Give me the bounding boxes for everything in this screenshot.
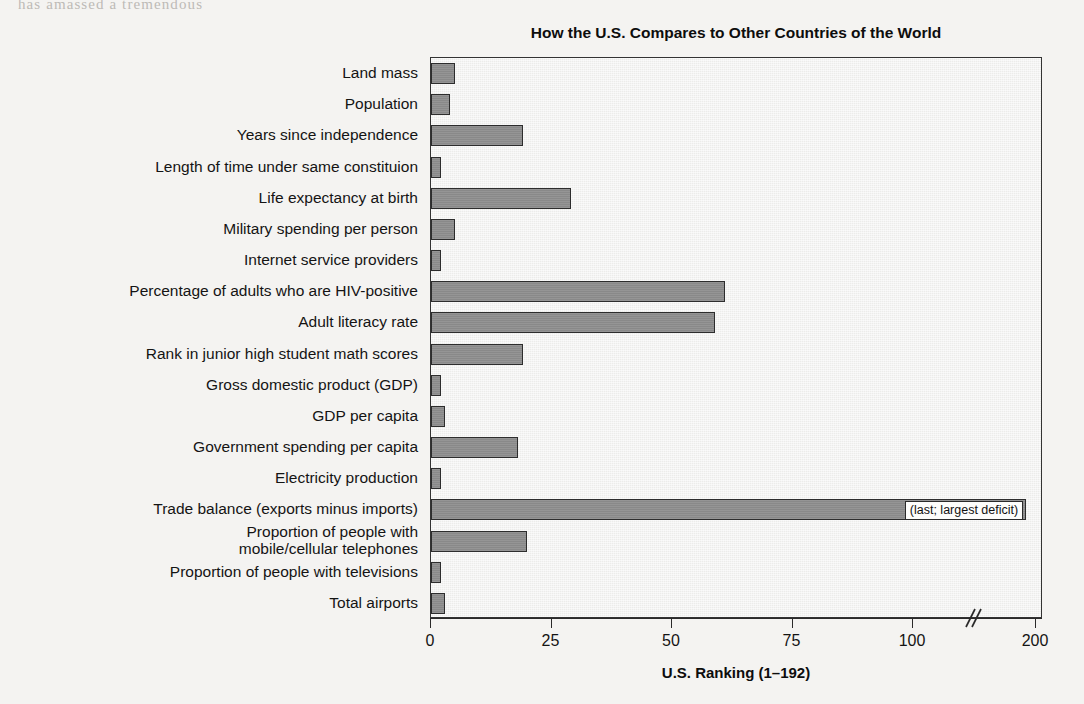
bar xyxy=(431,375,441,396)
bar xyxy=(431,219,455,240)
x-axis-line xyxy=(430,618,1042,619)
x-axis-title: U.S. Ranking (1–192) xyxy=(430,664,1042,681)
category-label: Adult literacy rate xyxy=(298,313,418,330)
bar-row xyxy=(431,307,1043,338)
category-label: Length of time under same constituion xyxy=(155,158,418,175)
x-tick-label: 0 xyxy=(426,632,435,650)
bar xyxy=(431,406,445,427)
category-axis-labels: Land massPopulationYears since independe… xyxy=(0,57,424,618)
category-label: Trade balance (exports minus imports) xyxy=(153,500,418,517)
bar xyxy=(431,437,518,458)
category-label: Percentage of adults who are HIV-positiv… xyxy=(129,282,418,299)
x-axis: 0255075100200 xyxy=(430,618,1042,632)
bar xyxy=(431,94,450,115)
bar-row xyxy=(431,183,1043,214)
bar-row xyxy=(431,401,1043,432)
x-tick-label: 200 xyxy=(1022,632,1049,650)
bar-row xyxy=(431,245,1043,276)
plot-area: (last; largest deficit) xyxy=(430,57,1042,618)
x-tick xyxy=(551,618,552,628)
category-label: Internet service providers xyxy=(244,251,418,268)
bar-row xyxy=(431,89,1043,120)
bar-row xyxy=(431,276,1043,307)
bar-row xyxy=(431,557,1043,588)
chart-title: How the U.S. Compares to Other Countries… xyxy=(430,24,1042,42)
bar-row xyxy=(431,120,1043,151)
x-tick xyxy=(792,618,793,628)
bar-row xyxy=(431,588,1043,619)
x-tick xyxy=(912,618,913,628)
x-tick-label: 100 xyxy=(899,632,926,650)
category-label: Gross domestic product (GDP) xyxy=(206,376,418,393)
bar-row: (last; largest deficit) xyxy=(431,494,1043,525)
category-label: Total airports xyxy=(329,594,418,611)
category-label: Proportion of people with mobile/cellula… xyxy=(239,523,418,557)
bar xyxy=(431,63,455,84)
x-tick xyxy=(671,618,672,628)
x-tick xyxy=(1035,618,1036,628)
bar-row xyxy=(431,526,1043,557)
category-label: Government spending per capita xyxy=(193,438,418,455)
bar xyxy=(431,188,571,209)
x-tick-label: 75 xyxy=(783,632,801,650)
x-tick-label: 50 xyxy=(662,632,680,650)
bar-row xyxy=(431,214,1043,245)
bar-row xyxy=(431,152,1043,183)
bar-row xyxy=(431,432,1043,463)
category-label: Land mass xyxy=(342,64,418,81)
bar xyxy=(431,250,441,271)
bar-row xyxy=(431,339,1043,370)
bar xyxy=(431,468,441,489)
bar-row xyxy=(431,370,1043,401)
category-label: Proportion of people with televisions xyxy=(170,563,418,580)
bar xyxy=(431,312,715,333)
category-label: Years since independence xyxy=(237,126,418,143)
x-tick xyxy=(430,618,431,628)
bar xyxy=(431,593,445,614)
axis-break-icon xyxy=(959,605,985,631)
category-label: Military spending per person xyxy=(223,220,418,237)
category-label: Life expectancy at birth xyxy=(259,189,418,206)
bar xyxy=(431,531,527,552)
bar xyxy=(431,157,441,178)
page-bleed-text: has amassed a tremendous xyxy=(18,0,408,12)
bar xyxy=(431,344,523,365)
bar-annotation: (last; largest deficit) xyxy=(905,501,1023,520)
category-label: Electricity production xyxy=(275,469,418,486)
bar-row xyxy=(431,463,1043,494)
bar-row xyxy=(431,58,1043,89)
category-label: GDP per capita xyxy=(312,407,418,424)
bar xyxy=(431,125,523,146)
bar xyxy=(431,562,441,583)
x-tick-label: 25 xyxy=(542,632,560,650)
category-label: Population xyxy=(345,95,418,112)
category-label: Rank in junior high student math scores xyxy=(146,345,418,362)
bar xyxy=(431,281,725,302)
